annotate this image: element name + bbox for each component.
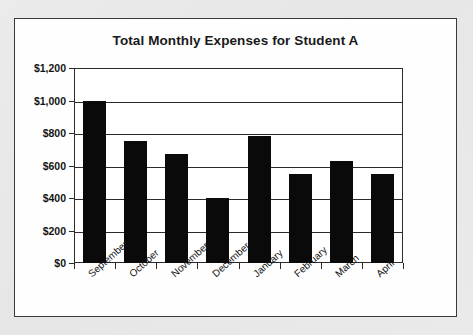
x-axis-tick-mark bbox=[239, 263, 240, 269]
x-axis-label-november: November bbox=[169, 240, 211, 279]
x-axis-label-february: February bbox=[292, 244, 329, 279]
chart-panel: Total Monthly Expenses for Student A $0$… bbox=[14, 18, 457, 317]
x-axis-tick-mark bbox=[74, 263, 75, 269]
x-axis-label-march: March bbox=[333, 252, 361, 279]
x-axis-tick-mark bbox=[403, 263, 404, 269]
x-axis-tick-mark bbox=[321, 263, 322, 269]
x-axis-tick-mark bbox=[197, 263, 198, 269]
x-axis-tick-mark bbox=[280, 263, 281, 269]
x-axis-label-april: April bbox=[374, 258, 396, 280]
page-background: Total Monthly Expenses for Student A $0$… bbox=[0, 0, 473, 335]
x-axis-label-september: September bbox=[86, 238, 130, 279]
x-axis-tick-mark bbox=[362, 263, 363, 269]
x-axis-tick-mark bbox=[156, 263, 157, 269]
x-axis-group: SeptemberOctoberNovemberDecemberJanuaryF… bbox=[15, 19, 458, 318]
x-axis-label-december: December bbox=[210, 240, 252, 279]
x-axis-tick-mark bbox=[115, 263, 116, 269]
plot-wrapper: $0$200$400$600$800$1,000$1,200 September… bbox=[15, 19, 458, 318]
